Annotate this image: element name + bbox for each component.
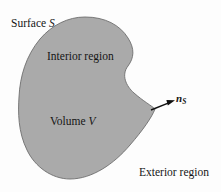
volume-label-text: Volume — [50, 115, 88, 127]
normal-vector-subscript: S — [182, 97, 186, 106]
volume-label: Volume V — [50, 116, 95, 128]
arrow-head — [166, 100, 175, 106]
surface-volume-diagram: Surface S Interior region Volume V nS Ex… — [0, 0, 221, 192]
surface-label-text: Surface — [11, 17, 49, 29]
exterior-region-label: Exterior region — [139, 167, 209, 179]
surface-label-symbol: S — [49, 17, 55, 29]
interior-region-label: Interior region — [47, 51, 114, 63]
closed-surface-blob — [19, 17, 155, 179]
volume-label-symbol: V — [88, 115, 95, 127]
outward-normal-arrow — [151, 100, 175, 110]
arrow-shaft — [151, 102, 170, 110]
surface-label: Surface S — [11, 18, 55, 30]
normal-vector-label: nS — [176, 93, 186, 105]
